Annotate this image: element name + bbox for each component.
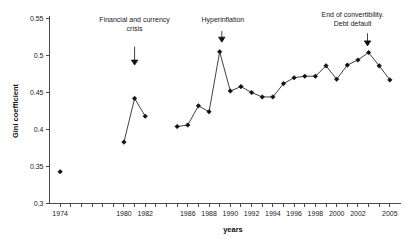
y-tick-label: 0.4 (34, 126, 44, 133)
data-point-marker (132, 96, 137, 101)
y-axis-ticks (46, 19, 50, 204)
x-tick-label: 1994 (265, 210, 281, 217)
gini-coefficient-chart: 0.30.350.40.450.50.55 197419801982198619… (0, 0, 418, 248)
data-point-marker (58, 169, 63, 174)
x-tick-label: 1998 (308, 210, 324, 217)
chart-annotations: Financial and currencycrisisHyperinflati… (99, 11, 383, 65)
y-tick-label: 0.55 (30, 15, 44, 22)
data-series (58, 50, 392, 174)
series-line-segment (124, 98, 145, 142)
annotation-arrow-head (131, 60, 137, 65)
data-point-marker (217, 50, 222, 55)
x-tick-label: 1986 (180, 210, 196, 217)
data-point-marker (122, 140, 127, 145)
data-point-marker (185, 123, 190, 128)
annotation-label: Hyperinflation (201, 16, 244, 24)
chart-canvas: 0.30.350.40.450.50.55 197419801982198619… (0, 0, 418, 248)
data-point-marker (196, 104, 201, 109)
x-axis-title: years (223, 225, 243, 234)
annotation-arrow-head (364, 41, 370, 46)
data-point-marker (143, 114, 148, 119)
x-tick-label: 2002 (350, 210, 366, 217)
data-point-marker (292, 75, 297, 80)
x-tick-label: 1982 (137, 210, 153, 217)
series-line-segment (177, 52, 390, 127)
y-axis-tick-labels: 0.30.350.40.450.50.55 (30, 15, 44, 207)
x-tick-label: 2005 (382, 210, 398, 217)
y-tick-label: 0.45 (30, 89, 44, 96)
x-axis-ticks (60, 204, 390, 208)
annotation-arrow-head (219, 37, 225, 42)
annotation-label: Financial and currency (99, 16, 170, 24)
data-point-marker (207, 109, 212, 114)
y-tick-label: 0.5 (34, 52, 44, 59)
data-point-marker (239, 84, 244, 89)
y-tick-label: 0.35 (30, 163, 44, 170)
data-point-marker (175, 124, 180, 129)
x-axis-tick-labels: 1974198019821986198819901992199419961998… (52, 210, 397, 217)
y-tick-label: 0.3 (34, 200, 44, 207)
x-tick-label: 2000 (329, 210, 345, 217)
x-tick-label: 1996 (286, 210, 302, 217)
x-tick-label: 1990 (223, 210, 239, 217)
x-tick-label: 1974 (52, 210, 68, 217)
annotation-label: End of convertibility. (322, 11, 384, 19)
data-point-marker (302, 74, 307, 79)
x-tick-label: 1980 (116, 210, 132, 217)
data-point-marker (228, 89, 233, 94)
annotation-label: crisis (127, 25, 143, 32)
annotation-label: Debt default (334, 20, 372, 27)
x-tick-label: 1988 (201, 210, 217, 217)
y-axis-title: Gini coefficient (11, 83, 20, 138)
x-tick-label: 1992 (244, 210, 260, 217)
data-point-marker (260, 95, 265, 100)
data-point-marker (249, 90, 254, 95)
